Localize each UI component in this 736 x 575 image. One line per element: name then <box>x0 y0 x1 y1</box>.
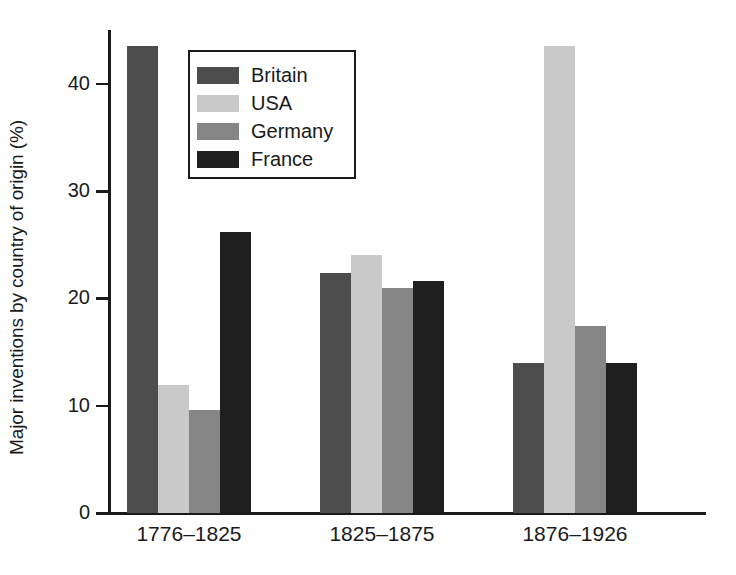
legend-item-germany: Germany <box>197 117 354 145</box>
legend-swatch-germany <box>197 123 239 140</box>
y-tick-label-text: 30 <box>46 180 90 200</box>
x-group-label: 1776–1825 <box>97 522 281 546</box>
y-tick-label-text: 10 <box>46 395 90 415</box>
y-tick-30 <box>96 190 109 193</box>
bar-germany-1 <box>189 410 220 513</box>
x-group-label: 1876–1926 <box>483 522 667 546</box>
y-tick-label: 0 <box>42 502 90 522</box>
bar-usa-1 <box>158 385 189 513</box>
bar-britain-1 <box>127 46 158 513</box>
y-tick-0 <box>96 512 109 515</box>
bar-france-3 <box>606 363 637 513</box>
legend-label-britain: Britain <box>251 65 308 85</box>
y-axis-title: Major inventions by country of origin (%… <box>0 0 34 575</box>
legend-swatch-france <box>197 151 239 168</box>
y-tick-label: 40 <box>42 73 90 93</box>
bar-germany-3 <box>575 326 606 513</box>
bar-france-1 <box>220 232 251 513</box>
x-group-label: 1825–1875 <box>290 522 474 546</box>
bar-usa-3 <box>544 46 575 513</box>
chart-legend: BritainUSAGermanyFrance <box>188 50 356 179</box>
bar-group <box>513 30 637 513</box>
y-tick-label-text: 40 <box>46 73 90 93</box>
y-tick-10 <box>96 405 109 408</box>
bar-chart-figure: Major inventions by country of origin (%… <box>0 0 736 575</box>
y-tick-20 <box>96 297 109 300</box>
y-tick-40 <box>96 83 109 86</box>
legend-label-germany: Germany <box>251 121 333 141</box>
legend-label-france: France <box>251 149 313 169</box>
legend-swatch-britain <box>197 67 239 84</box>
bar-britain-3 <box>513 363 544 513</box>
legend-item-britain: Britain <box>197 61 354 89</box>
bar-britain-2 <box>320 273 351 513</box>
y-tick-label: 10 <box>42 395 90 415</box>
y-tick-label: 20 <box>42 287 90 307</box>
legend-item-france: France <box>197 145 354 173</box>
legend-label-usa: USA <box>251 93 292 113</box>
bar-germany-2 <box>382 288 413 513</box>
y-tick-label: 30 <box>42 180 90 200</box>
legend-swatch-usa <box>197 95 239 112</box>
bar-france-2 <box>413 281 444 513</box>
legend-item-usa: USA <box>197 89 354 117</box>
bar-usa-2 <box>351 255 382 513</box>
y-tick-label-text: 0 <box>46 502 90 522</box>
y-tick-label-text: 20 <box>46 287 90 307</box>
